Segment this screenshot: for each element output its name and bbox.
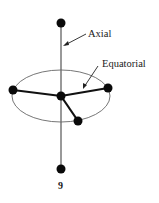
atom-equatorial-left <box>9 86 18 95</box>
equatorial-label: Equatorial <box>102 58 146 69</box>
atom-equatorial-right <box>104 84 113 93</box>
axial-arrow-icon <box>63 34 86 46</box>
atom-axial-bottom <box>57 165 66 174</box>
atom-axial-top <box>57 19 66 28</box>
figure-number: 9 <box>58 180 63 191</box>
trigonal-bipyramid-diagram: Axial Equatorial 9 <box>0 0 159 203</box>
atom-central <box>57 92 66 101</box>
bond-equatorial-front <box>61 96 78 121</box>
bond-equatorial-left <box>13 90 61 96</box>
bond-equatorial-right <box>61 88 108 96</box>
diagram-canvas: Axial Equatorial 9 <box>0 0 159 203</box>
axial-label: Axial <box>88 28 111 39</box>
atom-equatorial-front <box>74 117 83 126</box>
